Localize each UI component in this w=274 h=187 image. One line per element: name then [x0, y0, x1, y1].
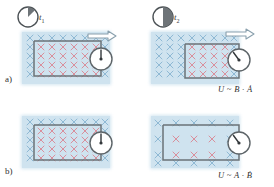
field-crosses-b1	[22, 116, 110, 168]
field-region-a1	[22, 32, 110, 84]
clock-glyph-a1	[16, 5, 40, 29]
clock-icon-a2	[151, 5, 175, 29]
field-crosses-a1	[22, 32, 110, 84]
field-crosses-b2	[151, 116, 239, 168]
time-label-a1: t1	[39, 12, 45, 24]
field-region-b2	[151, 116, 239, 168]
panel-b2	[137, 94, 274, 187]
time-subscript-a1: 1	[42, 18, 45, 24]
induction-figure: a) t1	[0, 0, 274, 187]
field-region-a2	[151, 32, 239, 84]
time-label-a2: t2	[174, 12, 180, 24]
panel-b1	[0, 94, 137, 187]
formula-row-a: U ~ B · Ȧ	[218, 84, 252, 94]
field-crosses-a2	[151, 32, 239, 84]
panel-a1: t1	[0, 0, 137, 94]
formula-row-b: U ~ A · Ḃ	[218, 170, 252, 180]
time-subscript-a2: 2	[177, 18, 180, 24]
panel-a2: t2	[137, 0, 274, 94]
field-region-b1	[22, 116, 110, 168]
clock-icon-a1	[16, 5, 40, 29]
clock-glyph-a2	[151, 5, 175, 29]
